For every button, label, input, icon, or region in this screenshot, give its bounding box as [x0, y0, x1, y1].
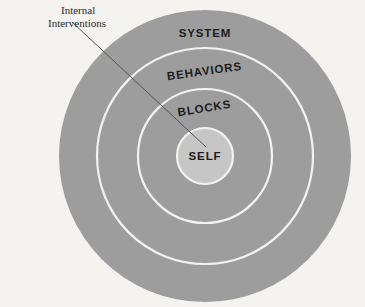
diagram-canvas: SYSTEM BEHAVIORS BLOCKS SELF Internal In…: [0, 0, 365, 307]
ring-label-self: SELF: [189, 150, 222, 162]
ring-label-system: SYSTEM: [179, 27, 232, 39]
annotation-line-1: Internal: [61, 4, 95, 16]
annotation-line-2: Interventions: [48, 17, 106, 29]
concentric-circles-diagram: SYSTEM BEHAVIORS BLOCKS SELF Internal In…: [0, 0, 365, 307]
